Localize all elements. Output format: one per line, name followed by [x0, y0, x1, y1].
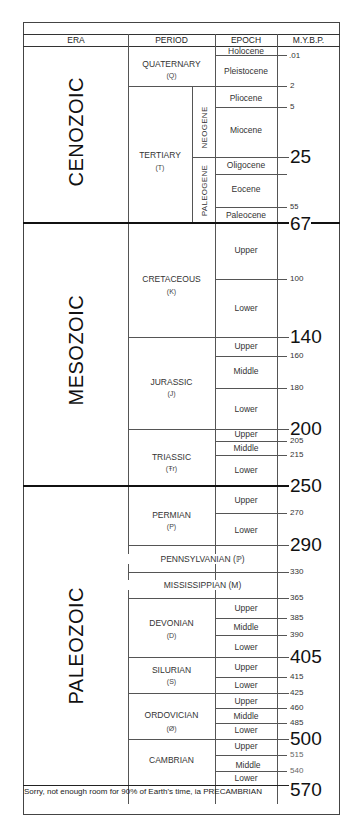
divider [128, 86, 287, 87]
period-ordovician-abbr: (Ø) [128, 725, 215, 732]
divider [215, 55, 287, 56]
divider [215, 723, 287, 724]
epoch-pleistocene: Pleistocene [215, 66, 277, 76]
period-permian: PERMIAN [128, 510, 215, 520]
divider [23, 46, 340, 47]
divider [277, 34, 278, 804]
period-cretaceous-abbr: (K) [128, 288, 215, 295]
divider [215, 677, 287, 678]
epoch-upper: Upper [215, 662, 277, 672]
era-paleozoic: PALEOZOIC [65, 595, 88, 705]
header-era: ERA [24, 35, 128, 45]
period-quaternary: QUATERNARY [128, 59, 215, 69]
divider [128, 545, 289, 546]
epoch-upper: Upper [215, 495, 277, 505]
divider [215, 513, 287, 514]
period-triassic-abbr: (Ŧr) [128, 465, 215, 472]
divider [128, 572, 289, 573]
period-ordovician: ORDOVICIAN [128, 710, 215, 720]
header-epoch: EPOCH [215, 35, 277, 45]
header-mybp: M.Y.B.P. [277, 35, 340, 45]
divider [215, 635, 287, 636]
era-boundary [23, 485, 289, 487]
mybp-515: 515 [290, 750, 303, 759]
mybp-160: 160 [290, 351, 303, 360]
period-triassic: TRIASSIC [128, 452, 215, 462]
epoch-lower: Lower [215, 642, 277, 652]
mybp-25: 25 [290, 147, 311, 166]
mybp-180: 180 [290, 383, 303, 392]
divider [128, 693, 289, 694]
divider [128, 337, 289, 338]
mybp-5: 5 [290, 102, 294, 111]
divider [215, 771, 287, 772]
divider [215, 279, 287, 280]
epoch-middle: Middle [215, 711, 277, 721]
epoch-lower: Lower [215, 525, 277, 535]
mybp-55: 55 [290, 202, 298, 211]
period-jurassic-abbr: (J) [128, 390, 215, 397]
mybp-390: 390 [290, 630, 303, 639]
epoch-middle: Middle [215, 443, 277, 453]
epoch-paleocene: Paleocene [215, 210, 277, 220]
epoch-miocene: Miocene [215, 125, 277, 135]
epoch-lower: Lower [215, 680, 277, 690]
period-tertiary: TERTIARY [128, 150, 192, 160]
footer-note: Sorry, not enough room for 90% of Earth'… [24, 787, 262, 796]
subperiod-paleogene: PALEOGENE [200, 155, 209, 227]
mybp-290: 290 [290, 535, 322, 554]
mybp-570: 570 [290, 780, 322, 799]
mybp-001: .01 [289, 51, 300, 60]
mybp-405: 405 [290, 647, 322, 666]
epoch-upper: Upper [215, 245, 277, 255]
divider [23, 785, 289, 786]
divider [192, 86, 193, 223]
mybp-270: 270 [290, 508, 303, 517]
mybp-100: 100 [290, 274, 303, 283]
divider [215, 107, 287, 108]
epoch-lower: Lower [215, 465, 277, 475]
mybp-540: 540 [290, 766, 303, 775]
period-silurian: SILURIAN [128, 665, 215, 675]
epoch-eocene: Eocene [215, 184, 277, 194]
epoch-lower: Lower [215, 773, 277, 783]
mybp-67: 67 [290, 214, 311, 233]
mybp-140: 140 [290, 327, 322, 346]
divider [215, 618, 287, 619]
mybp-250: 250 [290, 476, 322, 495]
period-tertiary-abbr: (T) [128, 164, 192, 171]
epoch-lower: Lower [215, 404, 277, 414]
divider [128, 739, 289, 740]
era-cenozoic: CENOZOIC [65, 87, 88, 187]
mybp-460: 460 [290, 703, 303, 712]
epoch-middle: Middle [215, 622, 277, 632]
epoch-lower: Lower [215, 725, 277, 735]
divider [215, 388, 287, 389]
epoch-upper: Upper [215, 603, 277, 613]
divider [215, 174, 287, 175]
epoch-middle: Middle [217, 760, 279, 770]
mybp-485: 485 [290, 718, 303, 727]
period-devonian-abbr: (D) [128, 632, 215, 639]
period-quaternary-abbr: (Q) [128, 72, 215, 79]
divider [215, 356, 287, 357]
era-boundary [23, 222, 289, 224]
mybp-365: 365 [290, 593, 303, 602]
epoch-middle: Middle [215, 366, 277, 376]
header-period: PERIOD [128, 35, 215, 45]
epoch-pliocene: Pliocene [215, 93, 277, 103]
period-pennsylvanian: PENNSYLVANIAN (ℙ) [128, 554, 277, 564]
epoch-upper: Upper [215, 429, 277, 439]
mybp-425: 425 [290, 688, 303, 697]
mybp-2: 2 [290, 81, 294, 90]
period-mississippian: MISSISSIPPIAN (M) [128, 580, 277, 590]
period-cambrian: CAMBRIAN [128, 755, 215, 765]
divider [215, 441, 287, 442]
divider [215, 755, 287, 756]
epoch-upper: Upper [215, 696, 277, 706]
divider [215, 455, 287, 456]
era-mesozoic: MESOZOIC [65, 306, 88, 406]
divider [215, 207, 287, 208]
epoch-upper: Upper [215, 341, 277, 351]
epoch-upper: Upper [215, 741, 277, 751]
